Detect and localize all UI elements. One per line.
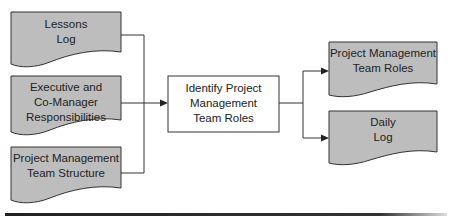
input-lessons-log: Lessons Log [11,17,121,47]
input-executive-responsibilities: Executive and Co-Manager Responsibilitie… [11,80,121,125]
label-line: Lessons [45,17,88,32]
label-line: Responsibilities [26,110,106,125]
label-line: Log [56,32,75,47]
input-team-structure: Project Management Team Structure [11,151,121,181]
output-team-roles: Project Management Team Roles [329,46,437,76]
label-line: Team Roles [353,61,414,76]
arrowhead-icon [160,100,168,107]
arrowhead-icon [321,135,329,142]
label-line: Executive and [30,80,102,95]
process-identify-roles: Identify Project Management Team Roles [168,81,279,126]
output-connectors [279,71,322,138]
label-line: Team Structure [27,166,105,181]
output-daily-log: Daily Log [329,115,437,145]
label-line: Log [373,130,392,145]
input-connectors [121,35,162,173]
label-line: Team Roles [193,111,254,126]
label-line: Co-Manager [34,95,98,110]
label-line: Project Management [13,151,119,166]
label-line: Daily [370,115,396,130]
label-line: Project Management [330,46,436,61]
arrowhead-icon [321,68,329,75]
bottom-rule [5,213,447,216]
label-line: Identify Project [185,81,261,96]
label-line: Management [190,96,257,111]
